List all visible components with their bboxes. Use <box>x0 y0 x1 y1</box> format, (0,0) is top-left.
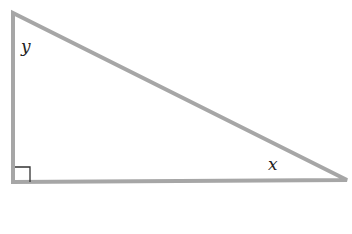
right-triangle-diagram: y x <box>0 0 352 234</box>
angle-y-label: y <box>20 36 31 56</box>
angle-x-label: x <box>268 154 278 174</box>
right-angle-marker <box>15 167 30 182</box>
triangle-outline <box>13 13 347 182</box>
